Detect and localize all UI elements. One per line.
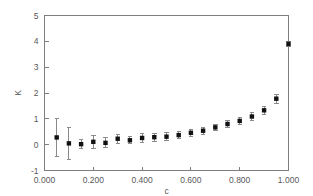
y-axis-title: K xyxy=(13,90,23,96)
data-point-marker xyxy=(274,96,278,100)
data-point-marker xyxy=(177,133,181,137)
data-point-marker xyxy=(103,141,107,145)
data-point-marker xyxy=(67,141,71,145)
data-point-marker xyxy=(238,119,242,123)
data-point-marker xyxy=(55,135,59,139)
data-point-marker xyxy=(164,134,168,138)
y-tick-label: 5 xyxy=(34,11,39,21)
data-point-marker xyxy=(128,138,132,142)
x-tick-label: 0.800 xyxy=(229,175,251,185)
x-tick-label: 1.000 xyxy=(278,175,300,185)
data-point-marker xyxy=(116,137,120,141)
data-point-marker xyxy=(152,135,156,139)
data-point-marker xyxy=(225,122,229,126)
chart-figure: -10123450.0000.2000.4000.6000.8001.000cK xyxy=(0,0,313,196)
y-tick-label: 4 xyxy=(34,36,39,46)
x-tick-label: 0.200 xyxy=(83,175,105,185)
data-point-marker xyxy=(262,108,266,112)
y-tick-label: 2 xyxy=(34,88,39,98)
data-point-marker xyxy=(213,125,217,129)
y-tick-label: 3 xyxy=(34,62,39,72)
data-point-marker xyxy=(79,142,83,146)
data-point-marker xyxy=(250,114,254,118)
scatter-plot-svg: -10123450.0000.2000.4000.6000.8001.000cK xyxy=(0,0,313,196)
data-point-marker xyxy=(201,129,205,133)
y-tick-label: 1 xyxy=(34,114,39,124)
data-point-marker xyxy=(91,140,95,144)
data-point-marker xyxy=(189,131,193,135)
x-axis-title: c xyxy=(164,186,169,196)
data-point-marker xyxy=(140,136,144,140)
y-tick-label: 0 xyxy=(34,140,39,150)
data-point-marker xyxy=(286,42,290,46)
x-tick-label: 0.400 xyxy=(131,175,153,185)
x-tick-label: 0.600 xyxy=(180,175,202,185)
x-tick-label: 0.000 xyxy=(34,175,56,185)
